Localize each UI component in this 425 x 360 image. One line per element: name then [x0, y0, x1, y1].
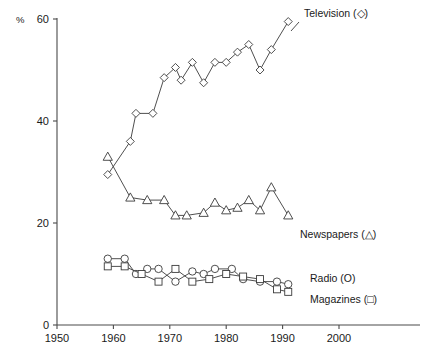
marker-diamond	[177, 76, 185, 84]
x-axis-tick-label: 2000	[327, 332, 351, 344]
series-label-television: Television (◇)	[304, 7, 368, 19]
series-line	[108, 22, 288, 175]
marker-circle	[211, 265, 218, 272]
marker-square	[206, 276, 213, 283]
marker-square	[138, 271, 145, 278]
chart-container: 0204060195019601970198019902000% Televis…	[0, 0, 425, 360]
marker-square	[155, 278, 162, 285]
marker-diamond	[126, 137, 134, 145]
y-axis-unit-label: %	[16, 14, 25, 25]
series-label-radio: Radio (O)	[310, 272, 356, 284]
marker-square	[223, 271, 230, 278]
marker-triangle	[267, 183, 276, 191]
y-axis-tick-label: 20	[37, 217, 49, 229]
marker-diamond	[284, 18, 292, 26]
marker-circle	[189, 268, 196, 275]
television-leader-line	[291, 22, 299, 31]
marker-square	[172, 265, 179, 272]
marker-circle	[121, 255, 128, 262]
marker-diamond	[256, 66, 264, 74]
x-axis-tick-label: 1950	[45, 332, 69, 344]
marker-square	[240, 273, 247, 280]
marker-circle	[172, 278, 179, 285]
marker-triangle	[160, 195, 169, 203]
line-chart: 0204060195019601970198019902000% Televis…	[0, 0, 425, 360]
marker-square	[104, 263, 111, 270]
marker-diamond	[245, 41, 253, 49]
series-newspapers	[103, 152, 293, 219]
marker-diamond	[188, 58, 196, 66]
y-axis-tick-label: 60	[37, 13, 49, 25]
marker-diamond	[267, 46, 275, 54]
y-axis-tick-label: 0	[43, 319, 49, 331]
series-labels: Television (◇)Newspapers (△)Radio (O)Mag…	[291, 7, 377, 305]
marker-square	[121, 263, 128, 270]
marker-square	[285, 288, 292, 295]
marker-triangle	[210, 198, 219, 206]
marker-square	[189, 278, 196, 285]
x-axis-tick-label: 1960	[101, 332, 125, 344]
series-magazines	[104, 263, 291, 296]
marker-square	[257, 276, 264, 283]
marker-triangle	[244, 195, 253, 203]
series-group	[103, 18, 293, 296]
series-label-newspapers: Newspapers (△)	[300, 228, 376, 240]
marker-triangle	[126, 193, 135, 201]
series-television	[104, 18, 292, 179]
marker-circle	[285, 281, 292, 288]
marker-triangle	[103, 152, 112, 160]
x-axis-tick-label: 1980	[214, 332, 238, 344]
marker-diamond	[211, 58, 219, 66]
marker-circle	[273, 278, 280, 285]
marker-triangle	[233, 203, 242, 211]
marker-circle	[104, 255, 111, 262]
marker-triangle	[284, 211, 293, 219]
marker-triangle	[171, 211, 180, 219]
marker-diamond	[132, 109, 140, 117]
x-axis-tick-label: 1990	[270, 332, 294, 344]
marker-circle	[155, 265, 162, 272]
x-axis-tick-label: 1970	[158, 332, 182, 344]
series-label-magazines: Magazines (□)	[310, 293, 377, 305]
marker-square	[273, 286, 280, 293]
marker-diamond	[200, 79, 208, 87]
marker-diamond	[104, 171, 112, 179]
marker-diamond	[149, 109, 157, 117]
y-axis-tick-label: 40	[37, 115, 49, 127]
series-line	[108, 157, 288, 216]
